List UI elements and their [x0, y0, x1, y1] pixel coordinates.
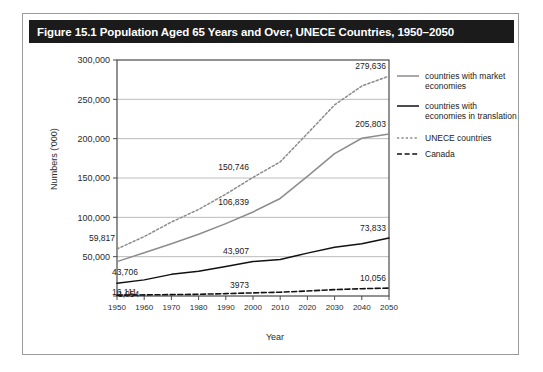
x-tick-label: 1990	[217, 303, 235, 312]
legend-label: Canada	[425, 149, 455, 159]
chart-legend: countries with marketeconomiescountries …	[397, 71, 517, 159]
x-tick-label: 2030	[326, 303, 344, 312]
x-tick-label: 1970	[163, 303, 181, 312]
y-tick-label: 300,000	[77, 55, 110, 65]
series-line	[117, 134, 389, 262]
data-label: 73,833	[360, 223, 386, 233]
chart-svg: 50,000100,000150,000200,000250,000300,00…	[23, 14, 520, 356]
y-tick-label: 150,000	[77, 173, 110, 183]
x-tick-label: 1950	[108, 303, 126, 312]
x-tick-label: 2040	[353, 303, 371, 312]
data-label: 205,803	[355, 119, 386, 129]
data-label: 3973	[230, 280, 249, 290]
data-label: 43,706	[112, 267, 138, 277]
data-label: 106,839	[218, 197, 249, 207]
data-label: 150,746	[218, 162, 249, 172]
legend-label: economies	[425, 81, 466, 91]
y-tick-label: 100,000	[77, 213, 110, 223]
y-tick-label: 250,000	[77, 95, 110, 105]
legend-label: countries with market	[425, 71, 506, 81]
series-line	[117, 76, 389, 249]
data-label: 10,056	[360, 273, 386, 283]
data-label: 43,907	[223, 246, 249, 256]
chart-plot-area: Numbers ('000) Year 50,000100,000150,000…	[23, 14, 520, 356]
legend-label: countries with	[425, 101, 477, 111]
legend-label: economies in translation	[425, 111, 517, 121]
x-tick-label: 1980	[190, 303, 208, 312]
x-tick-label: 2000	[244, 303, 262, 312]
data-label: 59,817	[89, 233, 115, 243]
x-tick-label: 1960	[135, 303, 153, 312]
data-series-group	[117, 76, 389, 295]
y-axis-ticks: 50,000100,000150,000200,000250,000300,00…	[77, 55, 117, 296]
x-axis-ticks: 1950196019701980199020002010202020302040…	[108, 296, 398, 312]
y-tick-label: 200,000	[77, 134, 110, 144]
y-tick-label: 50,000	[82, 252, 110, 262]
data-label: 1,054	[118, 289, 140, 299]
x-tick-label: 2050	[380, 303, 398, 312]
x-tick-label: 2010	[271, 303, 289, 312]
data-labels-group: 59,81743,70616,1111,054150,746106,83943,…	[89, 61, 386, 299]
figure-container: Figure 15.1 Population Aged 65 Years and…	[22, 13, 519, 355]
legend-label: UNECE countries	[425, 133, 492, 143]
series-line	[117, 288, 389, 295]
data-label: 279,636	[355, 61, 386, 71]
x-tick-label: 2020	[299, 303, 317, 312]
series-line	[117, 238, 389, 283]
